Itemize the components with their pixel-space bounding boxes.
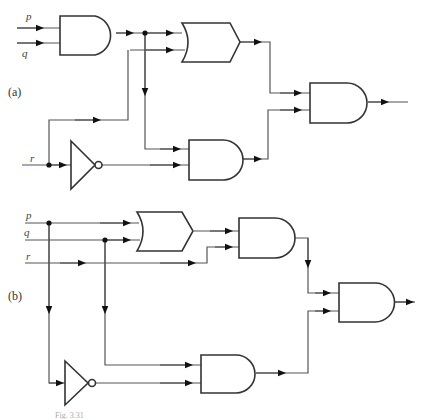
and-gate-4	[239, 218, 295, 258]
input-label-p: p	[25, 209, 32, 221]
and-gate-6	[201, 355, 255, 393]
panel-label-b: (b)	[8, 289, 22, 303]
not-gate-1	[71, 141, 95, 189]
junction-dot	[46, 162, 51, 167]
input-label-p: p	[25, 10, 32, 22]
input-label-q: q	[22, 47, 28, 59]
and-gate-1	[60, 16, 111, 55]
panel-label-a: (a)	[8, 85, 21, 99]
and-gate-3	[310, 83, 367, 123]
panel-b: p q r (b)	[8, 209, 415, 405]
not-gate-2	[65, 361, 88, 405]
junction-dot	[46, 220, 51, 225]
figure-caption: Fig. 3.31	[55, 411, 84, 419]
inverter-bubble	[95, 162, 102, 169]
input-label-r: r	[26, 250, 31, 262]
input-label-q: q	[24, 226, 30, 238]
or-gate-2	[137, 212, 193, 251]
logic-circuit-diagram: p q (a) r	[0, 0, 422, 419]
junction-dot	[142, 30, 147, 35]
inverter-bubble	[89, 380, 96, 387]
input-label-r: r	[30, 152, 35, 164]
junction-dot	[102, 237, 107, 242]
and-gate-5	[339, 283, 395, 322]
panel-a: p q (a) r	[8, 10, 408, 189]
and-gate-2	[189, 140, 243, 180]
or-gate-1	[182, 23, 240, 62]
